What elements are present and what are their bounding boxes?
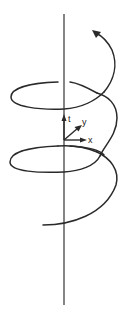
helix-diagram: t y x xyxy=(0,0,122,322)
x-axis-label: x xyxy=(88,135,93,145)
y-axis-label: y xyxy=(82,117,87,127)
t-axis-label: t xyxy=(68,114,71,124)
t-arrow-icon xyxy=(62,114,67,121)
x-arrow-icon xyxy=(80,138,87,143)
helix-arrow-icon xyxy=(92,30,101,38)
